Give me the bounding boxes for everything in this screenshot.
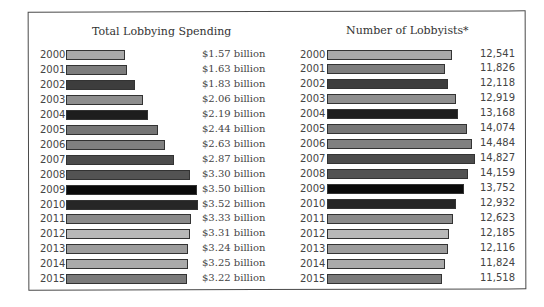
- year-label: 2007: [300, 153, 325, 164]
- lobbyists-row: 200312,919: [0, 92, 544, 107]
- lobbyists-row: 201411,824: [0, 257, 544, 272]
- lobbyists-value: 12,116: [455, 242, 515, 253]
- lobbyists-bar: [327, 229, 449, 239]
- lobbyists-value: 14,484: [455, 137, 515, 148]
- lobbyists-value: 12,541: [455, 48, 515, 59]
- lobbyists-value: 13,752: [455, 182, 515, 193]
- lobbyists-value: 14,159: [455, 167, 515, 178]
- year-label: 2002: [300, 78, 325, 89]
- year-label: 2001: [300, 63, 325, 74]
- lobbyists-bar: [327, 109, 458, 119]
- lobbyists-value: 11,824: [455, 257, 515, 268]
- lobbyists-row: 200814,159: [0, 167, 544, 182]
- chart-title-lobbyists: Number of Lobbyists*: [346, 24, 469, 37]
- lobbyists-bar: [327, 169, 468, 179]
- lobbyists-bar: [327, 214, 453, 224]
- lobbyists-value: 12,185: [455, 227, 515, 238]
- lobbyists-row: 200614,484: [0, 137, 544, 152]
- lobbyists-value: 12,118: [455, 77, 515, 88]
- year-label: 2015: [300, 273, 325, 284]
- lobbyists-row: 200212,118: [0, 77, 544, 92]
- lobbyists-value: 14,827: [455, 152, 515, 163]
- lobbyists-row: 201012,932: [0, 197, 544, 212]
- lobbyists-bar: [327, 124, 467, 134]
- lobbyists-bar: [327, 199, 456, 209]
- lobbyists-row: 201112,623: [0, 212, 544, 227]
- lobbyists-row: 201212,185: [0, 227, 544, 242]
- lobbyists-value: 11,826: [455, 62, 515, 73]
- year-label: 2011: [300, 213, 325, 224]
- lobbyists-bar: [327, 244, 448, 254]
- lobbyists-row: 200111,826: [0, 62, 544, 77]
- year-label: 2004: [300, 108, 325, 119]
- lobbyists-value: 13,168: [455, 107, 515, 118]
- year-label: 2009: [300, 183, 325, 194]
- lobbyists-value: 12,919: [455, 92, 515, 103]
- lobbyists-value: 12,932: [455, 197, 515, 208]
- lobbyists-row: 201312,116: [0, 242, 544, 257]
- year-label: 2008: [300, 168, 325, 179]
- chart-title-spending: Total Lobbying Spending: [92, 25, 231, 38]
- lobbyists-bar: [327, 50, 452, 60]
- lobbyists-row: 200413,168: [0, 107, 544, 122]
- year-label: 2000: [300, 49, 325, 60]
- lobbyists-bar: [327, 64, 445, 74]
- year-label: 2014: [300, 258, 325, 269]
- lobbyists-row: 200012,541: [0, 48, 544, 63]
- lobbyists-row: 200514,074: [0, 122, 544, 137]
- lobbyists-bar: [327, 184, 464, 194]
- lobbyists-bar: [327, 154, 475, 164]
- lobbyists-value: 12,623: [455, 212, 515, 223]
- lobbyists-row: 201511,518: [0, 272, 544, 287]
- lobbyists-bar: [327, 139, 472, 149]
- year-label: 2010: [300, 198, 325, 209]
- year-label: 2003: [300, 93, 325, 104]
- lobbyists-bar: [327, 259, 445, 269]
- lobbyists-bar: [327, 79, 448, 89]
- year-label: 2005: [300, 123, 325, 134]
- lobbyists-row: 200913,752: [0, 182, 544, 197]
- lobbyists-value: 14,074: [455, 122, 515, 133]
- year-label: 2006: [300, 138, 325, 149]
- lobbyists-value: 11,518: [455, 272, 515, 283]
- lobbyists-row: 200714,827: [0, 152, 544, 167]
- lobbyists-bar: [327, 274, 442, 284]
- year-label: 2012: [300, 228, 325, 239]
- lobbyists-bar: [327, 94, 456, 104]
- year-label: 2013: [300, 243, 325, 254]
